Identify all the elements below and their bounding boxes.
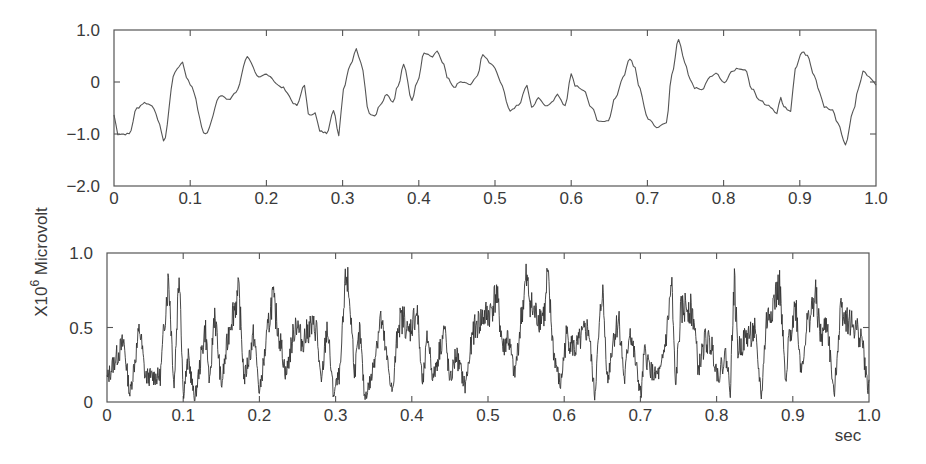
top-chart-y-ticks: 1.00−1.0−2.0 <box>66 21 876 196</box>
x-tick-label: 0.2 <box>248 406 272 425</box>
y-axis-title: X106 Microvolt <box>28 207 51 317</box>
x-tick-label: 0.4 <box>407 189 431 208</box>
x-tick-label: 0.9 <box>781 406 805 425</box>
x-tick-label: 0.4 <box>400 406 424 425</box>
x-tick-label: 0.7 <box>636 189 660 208</box>
x-tick-label: 0.9 <box>788 189 812 208</box>
figure: 00.10.20.30.40.50.60.70.80.91.0 1.00−1.0… <box>0 0 926 464</box>
bottom-chart-trace <box>107 264 869 401</box>
x-tick-label: 1.0 <box>864 189 888 208</box>
x-tick-label: 0.5 <box>476 406 500 425</box>
x-tick-label: 0 <box>102 406 111 425</box>
x-tick-label: 0.7 <box>629 406 653 425</box>
x-tick-label: 0.3 <box>324 406 348 425</box>
top-chart-trace <box>114 40 876 145</box>
y-tick-label: 0 <box>91 73 100 92</box>
top-chart-frame <box>114 30 876 186</box>
bottom-chart-x-ticks: 00.10.20.30.40.50.60.70.80.91.0 <box>102 253 881 425</box>
x-tick-label: 0.2 <box>255 189 279 208</box>
y-tick-label: 0.5 <box>69 319 93 338</box>
y-axis-title-unit: Microvolt <box>32 207 51 280</box>
x-axis-title: sec <box>835 426 862 445</box>
y-tick-label: −2.0 <box>66 177 100 196</box>
y-tick-label: 0 <box>84 393 93 412</box>
x-tick-label: 0.5 <box>483 189 507 208</box>
y-axis-title-prefix: X10 <box>32 287 51 317</box>
x-tick-label: 0.6 <box>552 406 576 425</box>
x-tick-label: 0.8 <box>705 406 729 425</box>
x-tick-label: 0.1 <box>178 189 202 208</box>
bottom-chart: 00.10.20.30.40.50.60.70.80.91.0 1.00.50 <box>69 244 880 425</box>
x-tick-label: 0.8 <box>712 189 736 208</box>
y-tick-label: 1.0 <box>76 21 100 40</box>
y-tick-label: −1.0 <box>66 125 100 144</box>
top-chart: 00.10.20.30.40.50.60.70.80.91.0 1.00−1.0… <box>66 21 887 208</box>
x-tick-label: 0 <box>109 189 118 208</box>
x-tick-label: 0.6 <box>559 189 583 208</box>
x-tick-label: 1.0 <box>857 406 881 425</box>
x-tick-label: 0.3 <box>331 189 355 208</box>
x-tick-label: 0.1 <box>171 406 195 425</box>
y-tick-label: 1.0 <box>69 244 93 263</box>
top-chart-x-ticks: 00.10.20.30.40.50.60.70.80.91.0 <box>109 30 888 208</box>
